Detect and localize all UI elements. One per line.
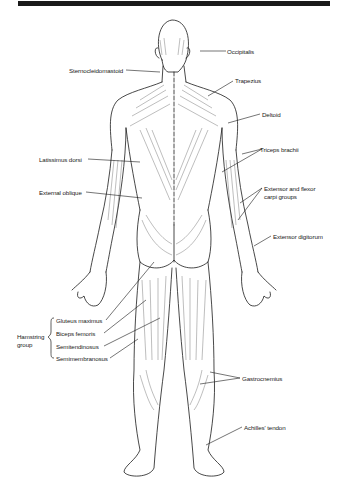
head-outline [158,20,188,72]
label-biceps-femoris: Biceps femoris [56,330,95,337]
label-hamstring-group-2: group [17,341,32,348]
leg-right [176,262,224,476]
label-semimembranosus: Semimembranosus [56,355,108,362]
label-hamstring-group-1: Hamstring [17,333,44,340]
label-gluteus-maximus: Gluteus maximus [56,317,102,324]
label-extensor-flexor-carpi-1: Extensor and flexor [264,185,315,192]
hamstring-bracket [48,318,54,358]
label-latissimus-dorsi: Latissimus dorsi [39,156,82,163]
label-trapezius: Trapezius [235,77,261,84]
label-occipitalis: Occipitalis [227,48,254,55]
label-semitendinosus: Semitendinosus [56,343,99,350]
label-sternocleidomastoid: Sternocleidomastoid [69,67,123,74]
label-gastrocnemius: Gastrocnemius [242,375,282,382]
label-external-oblique: External oblique [39,189,82,196]
label-deltoid: Deltoid [262,111,281,118]
label-extensor-digitorum: Extensor digitorum [273,233,323,240]
muscle-figure-posterior [0,0,345,493]
label-achilles-tendon: Achilles' tendon [244,424,286,431]
label-extensor-flexor-carpi-2: carpi groups [264,193,297,200]
leg-left [124,262,172,476]
label-triceps-brachii: Triceps brachii [260,146,299,153]
